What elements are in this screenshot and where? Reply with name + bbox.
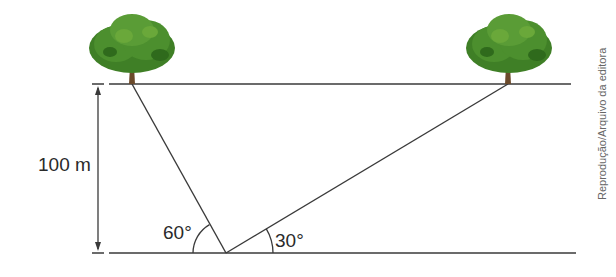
height-label: 100 m xyxy=(38,154,91,176)
sight-line-right-tree xyxy=(226,84,508,253)
tree-left-icon xyxy=(89,14,175,84)
image-credit: Reprodução/Arquivo da editora xyxy=(596,48,608,200)
height-dimension-arrow xyxy=(95,86,101,251)
angle-arc-30 xyxy=(266,229,273,253)
tree-right-icon xyxy=(466,14,552,84)
angle-60-label: 60° xyxy=(163,222,192,244)
angle-30-label: 30° xyxy=(275,230,304,252)
diagram-canvas xyxy=(0,0,616,277)
angle-arc-60 xyxy=(193,225,210,253)
